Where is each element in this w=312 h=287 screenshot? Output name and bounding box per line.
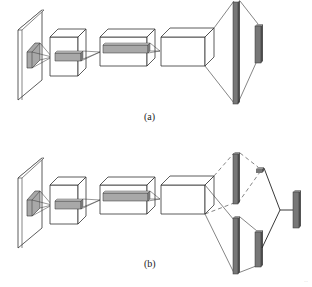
final-output-bar [293,190,301,228]
panel-b-diagram [18,152,301,274]
fc-layer-bar [233,0,240,104]
output-vector-bar [255,24,263,63]
diagram-canvas [0,0,312,287]
panel-a-diagram [18,0,263,104]
fc-branch-lower-bar [233,216,240,274]
panel-b-caption: (b) [144,258,156,269]
panel-a-caption: (a) [144,111,155,122]
fc-branch-upper-bar [233,152,240,204]
corner-mark: ·· [304,279,308,285]
upper-output-block [256,167,264,173]
lower-output-bar [255,230,263,267]
